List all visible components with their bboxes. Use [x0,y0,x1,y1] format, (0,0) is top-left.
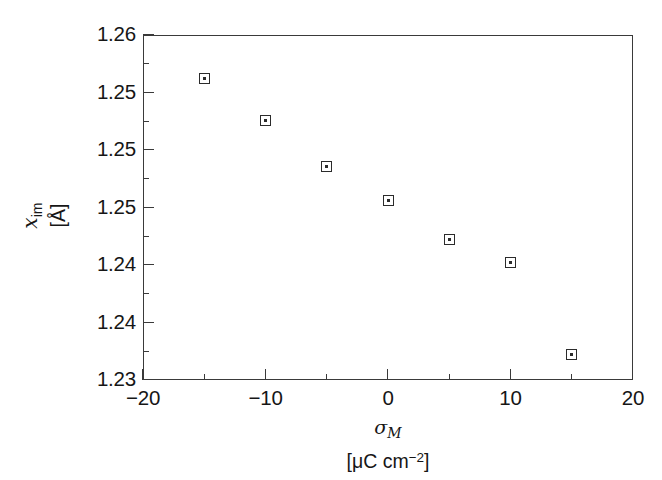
x-tick-label: 10 [499,386,521,409]
data-point-marker [199,73,210,84]
x-tick-label: 20 [622,386,644,409]
x-axis-units-exponent: −2 [409,450,424,465]
y-axis-variable: x [18,217,42,228]
data-point-marker [321,161,332,172]
x-axis-units-open: [μC cm [347,450,409,472]
x-axis-subscript: M [387,425,401,441]
data-point-marker [566,349,577,360]
x-tick-label-holder: 20 [583,387,662,409]
y-tick-label: 1.24 [56,312,136,333]
y-axis-title: xim [Å] [18,146,69,286]
x-axis-symbol: σ [374,416,387,438]
y-axis-units: [Å] [49,146,70,286]
x-axis-title: σM [μC cm−2] [143,416,633,473]
y-tick-label: 1.26 [56,24,136,45]
x-tick-label-holder: −20 [93,387,193,409]
figure-container: 1.261.251.251.251.241.241.23 −20−1001020… [0,0,662,480]
x-axis-units: [μC cm−2] [143,446,633,473]
data-point-marker [505,257,516,268]
y-axis-subscript: im [29,203,45,218]
x-axis-units-close: ] [424,450,429,472]
x-tick-label: −20 [126,386,160,409]
x-tick-label: −10 [248,386,282,409]
data-point-marker [260,115,271,126]
x-tick-label-holder: 0 [338,387,438,409]
data-point-marker [444,234,455,245]
y-tick-label: 1.25 [56,82,136,103]
data-series-xim [143,35,633,380]
data-point-marker [383,195,394,206]
x-tick-label-holder: 10 [461,387,561,409]
x-tick-label: 0 [382,386,393,409]
x-tick-label-holder: −10 [216,387,316,409]
